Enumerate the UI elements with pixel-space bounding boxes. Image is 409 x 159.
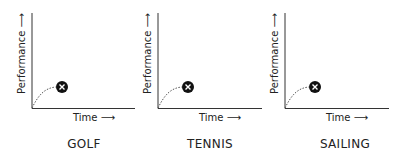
- x-axis-label: Time ⟶: [73, 112, 115, 123]
- x-circle-icon: [182, 81, 194, 93]
- y-axis-label: Performance ⟶: [142, 13, 153, 94]
- y-axis-label: Performance ⟶: [16, 13, 27, 94]
- arrow-icon: ⟶: [269, 13, 280, 27]
- performance-curve: [32, 87, 56, 108]
- arrow-icon: ⟶: [101, 112, 115, 123]
- chart-panel-sailing: Performance ⟶ Time ⟶ SAILING: [253, 0, 389, 159]
- x-axis-label: Time ⟶: [199, 112, 241, 123]
- x-circle-icon: [56, 81, 68, 93]
- arrow-icon: ⟶: [142, 13, 153, 27]
- x-axis-label: Time ⟶: [326, 112, 368, 123]
- performance-curve: [158, 87, 182, 108]
- x-circle-icon: [309, 81, 321, 93]
- arrow-icon: ⟶: [354, 112, 368, 123]
- arrow-icon: ⟶: [227, 112, 241, 123]
- performance-curve: [285, 87, 309, 108]
- y-axis-label: Performance ⟶: [269, 13, 280, 94]
- arrow-icon: ⟶: [16, 13, 27, 27]
- chart-panel-golf: Performance ⟶ Time ⟶ GOLF: [0, 0, 136, 159]
- chart-title: SAILING: [277, 137, 409, 151]
- chart-panel-tennis: Performance ⟶ Time ⟶ TENNIS: [126, 0, 262, 159]
